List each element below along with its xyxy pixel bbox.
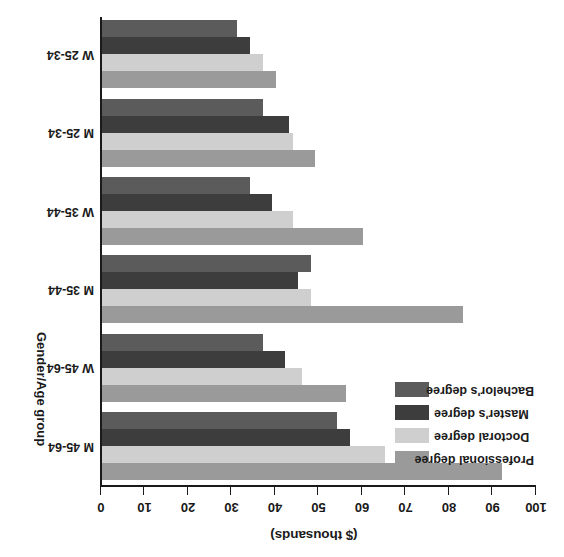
bar <box>102 150 315 167</box>
bar <box>102 20 237 37</box>
legend-item-label: Bachelor's degree <box>434 384 534 398</box>
value-axis-tick-mark <box>100 487 101 495</box>
value-axis-tick-label: 100 <box>525 500 547 515</box>
bar <box>102 368 302 385</box>
value-axis-tick-mark <box>492 487 493 495</box>
legend-item[interactable]: Doctoral degree <box>294 426 534 446</box>
legend-item-label: Doctoral degree <box>434 430 534 444</box>
value-axis-tick-mark <box>144 487 145 495</box>
category-axis-label: M 35-44 <box>48 283 94 297</box>
value-axis-tick-mark <box>361 487 362 495</box>
legend-item-label: Master's degree <box>434 407 534 421</box>
bar <box>102 228 363 245</box>
value-axis-tick-label: 20 <box>181 500 195 515</box>
legend-item[interactable]: Professional degree <box>294 449 534 469</box>
category-axis-label: M 45-64 <box>48 440 94 454</box>
bar <box>102 99 263 116</box>
legend-swatch-icon <box>395 382 429 397</box>
legend-swatch-icon <box>395 405 429 420</box>
chart-legend: Professional degreeDoctoral degreeMaster… <box>294 377 534 469</box>
bar <box>102 211 293 228</box>
category-axis-label: M 25-34 <box>48 127 94 141</box>
bar-group <box>100 15 564 93</box>
value-axis-tick-label: 90 <box>485 500 499 515</box>
category-axis-label: W 25-34 <box>47 48 94 62</box>
value-axis-tick-label: 50 <box>311 500 325 515</box>
value-axis-tick-label: 70 <box>398 500 412 515</box>
value-axis-tick-label: 0 <box>97 500 104 515</box>
bar <box>102 133 293 150</box>
value-axis-tick-mark <box>318 487 319 495</box>
bar <box>102 71 276 88</box>
bar-group <box>100 93 564 171</box>
value-axis-tick-labels: 0102030405060708090100 <box>0 497 564 515</box>
legend-swatch-icon <box>395 428 429 443</box>
value-axis-tick-mark <box>535 487 536 495</box>
bar-group <box>100 172 564 250</box>
legend-item-label: Professional degree <box>434 453 534 467</box>
bar <box>102 351 285 368</box>
value-axis-tick-mark <box>405 487 406 495</box>
value-axis-tick-label: 80 <box>442 500 456 515</box>
bar <box>102 177 250 194</box>
bar <box>102 334 263 351</box>
bar <box>102 37 250 54</box>
value-axis-tick-label: 10 <box>137 500 151 515</box>
bar-group <box>100 250 564 328</box>
bar <box>102 54 263 71</box>
category-axis-title: Gender/Age group <box>34 332 49 446</box>
bar <box>102 116 289 133</box>
chart-figure: ($ thousands) 0102030405060708090100 M 4… <box>0 0 564 557</box>
chart-canvas: ($ thousands) 0102030405060708090100 M 4… <box>0 0 564 557</box>
bar <box>102 289 311 306</box>
value-axis-tick-mark <box>448 487 449 495</box>
bar <box>102 272 298 289</box>
value-axis-title: ($ thousands) <box>64 528 564 543</box>
value-axis-tick-mark <box>274 487 275 495</box>
value-axis-line <box>100 485 536 487</box>
value-axis-tick-mark <box>187 487 188 495</box>
value-axis-tick-label: 30 <box>224 500 238 515</box>
bar <box>102 194 272 211</box>
value-axis-tick-label: 60 <box>355 500 369 515</box>
legend-item[interactable]: Bachelor's degree <box>294 380 534 400</box>
category-axis-label: W 35-44 <box>47 205 94 219</box>
value-axis-tick-mark <box>231 487 232 495</box>
category-axis-label: W 45-64 <box>47 362 94 376</box>
bar <box>102 255 311 272</box>
value-axis-tick-label: 40 <box>268 500 282 515</box>
legend-item[interactable]: Master's degree <box>294 403 534 423</box>
bar <box>102 306 463 323</box>
